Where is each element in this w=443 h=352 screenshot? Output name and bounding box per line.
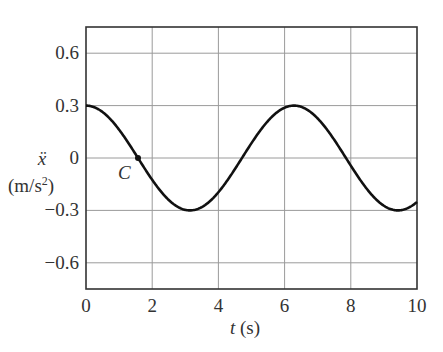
y-tick-label: 0.6	[55, 42, 79, 63]
acceleration-chart: C 0.60.30−0.3−0.6 0246810 ẍ (m/s2) t (s)	[0, 0, 443, 352]
y-tick-label: −0.3	[45, 199, 79, 220]
y-unit-base: (m/s	[8, 175, 42, 197]
x-tick-labels: 0246810	[81, 295, 426, 316]
y-unit-end: )	[48, 175, 54, 197]
y-tick-label: 0.3	[55, 95, 79, 116]
y-tick-labels: 0.60.30−0.3−0.6	[45, 42, 79, 273]
x-tick-label: 8	[346, 295, 356, 316]
y-tick-label: −0.6	[45, 252, 79, 273]
point-c-marker	[135, 155, 141, 161]
x-axis-label: t (s)	[230, 317, 260, 339]
x-tick-label: 6	[280, 295, 290, 316]
y-axis-label-variable: ẍ	[37, 148, 47, 169]
x-tick-label: 4	[214, 295, 224, 316]
x-label-unit-text: (s)	[240, 317, 260, 339]
y-axis-label-unit: (m/s2)	[8, 174, 54, 197]
y-tick-label: 0	[70, 147, 80, 168]
x-tick-label: 10	[408, 295, 427, 316]
x-tick-label: 2	[147, 295, 157, 316]
x-tick-label: 0	[81, 295, 91, 316]
point-c-label: C	[118, 162, 131, 183]
